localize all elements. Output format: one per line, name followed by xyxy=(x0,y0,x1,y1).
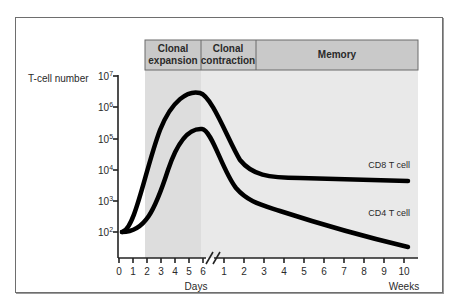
svg-text:5: 5 xyxy=(301,266,307,277)
svg-text:3: 3 xyxy=(158,266,164,277)
svg-text:4: 4 xyxy=(281,266,287,277)
svg-text:8: 8 xyxy=(361,266,367,277)
x-axis-label-weeks: Weeks xyxy=(389,281,419,292)
phase-contraction-line2: contraction xyxy=(201,55,255,66)
tcell-chart: Clonal expansion Clonal contraction Memo… xyxy=(0,0,457,308)
x-axis xyxy=(118,258,418,263)
svg-text:10: 10 xyxy=(398,266,410,277)
cd4-label: CD4 T cell xyxy=(368,208,410,218)
svg-text:103: 103 xyxy=(98,195,113,207)
phase-headers: Clonal expansion Clonal contraction Memo… xyxy=(145,40,418,70)
svg-text:107: 107 xyxy=(98,70,113,82)
svg-text:6: 6 xyxy=(200,266,206,277)
svg-text:106: 106 xyxy=(98,101,113,113)
x-tick-labels-weeks: 1 2 3 4 5 6 7 8 9 10 xyxy=(221,266,410,277)
svg-text:104: 104 xyxy=(98,164,113,176)
x-axis-label-days: Days xyxy=(185,281,208,292)
svg-text:1: 1 xyxy=(221,266,227,277)
svg-text:105: 105 xyxy=(98,133,113,145)
svg-text:0: 0 xyxy=(116,266,122,277)
svg-text:7: 7 xyxy=(341,266,347,277)
svg-text:3: 3 xyxy=(261,266,267,277)
svg-text:102: 102 xyxy=(98,226,113,238)
svg-text:9: 9 xyxy=(381,266,387,277)
svg-text:5: 5 xyxy=(186,266,192,277)
phase-expansion-line2: expansion xyxy=(148,55,197,66)
svg-text:4: 4 xyxy=(172,266,178,277)
y-axis xyxy=(113,75,118,258)
svg-text:6: 6 xyxy=(321,266,327,277)
phase-memory: Memory xyxy=(318,49,357,60)
y-tick-labels: 107 106 105 104 103 102 xyxy=(98,70,113,238)
phase-expansion-line1: Clonal xyxy=(158,43,189,54)
svg-text:1: 1 xyxy=(130,266,136,277)
phase-contraction-line1: Clonal xyxy=(213,43,244,54)
svg-text:2: 2 xyxy=(144,266,150,277)
y-axis-label: T-cell number xyxy=(28,73,89,84)
x-tick-labels-days: 0 1 2 3 4 5 6 xyxy=(116,266,206,277)
cd8-label: CD8 T cell xyxy=(368,160,410,170)
svg-text:2: 2 xyxy=(241,266,247,277)
shade-expansion xyxy=(145,70,201,258)
